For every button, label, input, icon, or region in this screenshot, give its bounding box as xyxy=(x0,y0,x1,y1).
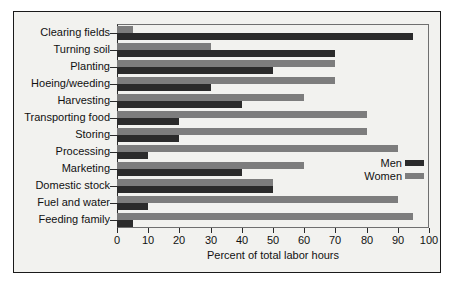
bar-men xyxy=(117,84,211,91)
x-axis-tick xyxy=(211,228,212,233)
bar-men xyxy=(117,33,413,40)
bar-women xyxy=(117,43,211,50)
bar-women xyxy=(117,213,413,220)
x-axis-tick xyxy=(335,228,336,233)
x-axis-title: Percent of total labor hours xyxy=(117,249,429,261)
category-tick xyxy=(110,220,117,221)
bar-men xyxy=(117,169,242,176)
bar-men xyxy=(117,101,242,108)
x-axis-tick xyxy=(273,228,274,233)
bar-women xyxy=(117,111,367,118)
bar-men xyxy=(117,50,335,57)
x-axis-tick xyxy=(148,228,149,233)
category-label: Planting xyxy=(70,61,110,72)
bar-women xyxy=(117,94,304,101)
category-axis-labels: Clearing fieldsTurning soilPlantingHoein… xyxy=(14,24,110,228)
category-tick xyxy=(110,67,117,68)
category-tick xyxy=(110,33,117,34)
bar-men xyxy=(117,220,133,227)
bar-men xyxy=(117,67,273,74)
x-axis-tick xyxy=(117,228,118,233)
x-axis-tick xyxy=(304,228,305,233)
x-axis-tick-label: 100 xyxy=(409,234,449,247)
x-axis-tick xyxy=(429,228,430,233)
category-label: Domestic stock xyxy=(35,180,110,191)
legend-swatch xyxy=(405,173,424,179)
bar-women xyxy=(117,26,133,33)
category-label: Feeding family xyxy=(38,214,110,225)
bar-women xyxy=(117,196,398,203)
category-label: Storing xyxy=(75,129,110,140)
x-axis-tick xyxy=(242,228,243,233)
bar-men xyxy=(117,186,273,193)
category-tick xyxy=(110,50,117,51)
category-label: Processing xyxy=(56,146,110,157)
legend-swatch xyxy=(405,160,424,166)
category-tick xyxy=(110,186,117,187)
category-tick xyxy=(110,152,117,153)
bar-women xyxy=(117,145,398,152)
category-label: Turning soil xyxy=(54,44,110,55)
category-tick xyxy=(110,169,117,170)
bar-men xyxy=(117,118,179,125)
category-tick xyxy=(110,118,117,119)
bar-women xyxy=(117,60,335,67)
chart-figure: Clearing fieldsTurning soilPlantingHoein… xyxy=(0,0,457,286)
category-label: Clearing fields xyxy=(40,27,110,38)
x-axis-tick xyxy=(367,228,368,233)
category-tick xyxy=(110,84,117,85)
legend-label: Women xyxy=(364,170,402,182)
category-tick xyxy=(110,135,117,136)
category-tick xyxy=(110,203,117,204)
bar-women xyxy=(117,179,273,186)
category-label: Fuel and water xyxy=(37,197,110,208)
category-label: Transporting food xyxy=(24,112,110,123)
bar-men xyxy=(117,135,179,142)
bar-men xyxy=(117,203,148,210)
legend-label: Men xyxy=(381,157,402,169)
category-label: Harvesting xyxy=(57,95,110,106)
bar-women xyxy=(117,128,367,135)
bar-women xyxy=(117,77,335,84)
chart-legend: MenWomen xyxy=(356,158,424,184)
bar-women xyxy=(117,162,304,169)
x-axis-tick xyxy=(179,228,180,233)
category-label: Hoeing/weeding xyxy=(31,78,110,89)
bar-men xyxy=(117,152,148,159)
category-tick xyxy=(110,101,117,102)
category-label: Marketing xyxy=(62,163,110,174)
x-axis-tick xyxy=(398,228,399,233)
